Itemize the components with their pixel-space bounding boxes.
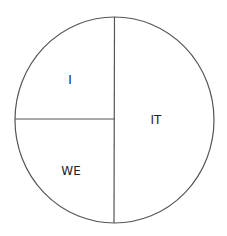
label-it: IT <box>151 113 163 127</box>
vertical-divider <box>114 17 115 223</box>
label-i: I <box>68 73 72 87</box>
label-we: WE <box>61 164 80 178</box>
four-quadrant-diagram: I IT WE <box>0 0 227 236</box>
